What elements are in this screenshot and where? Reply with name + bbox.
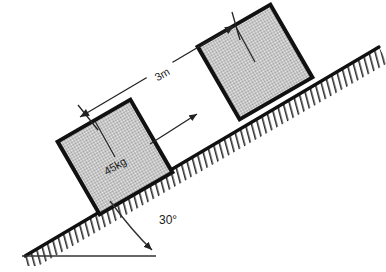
- physics-diagram-canvas: 3m 45kg 30°: [0, 0, 386, 272]
- motion-direction-arrow: [150, 114, 197, 144]
- angle-label: 30°: [159, 213, 177, 227]
- inclined-plane-diagram: 3m 45kg 30°: [0, 0, 386, 272]
